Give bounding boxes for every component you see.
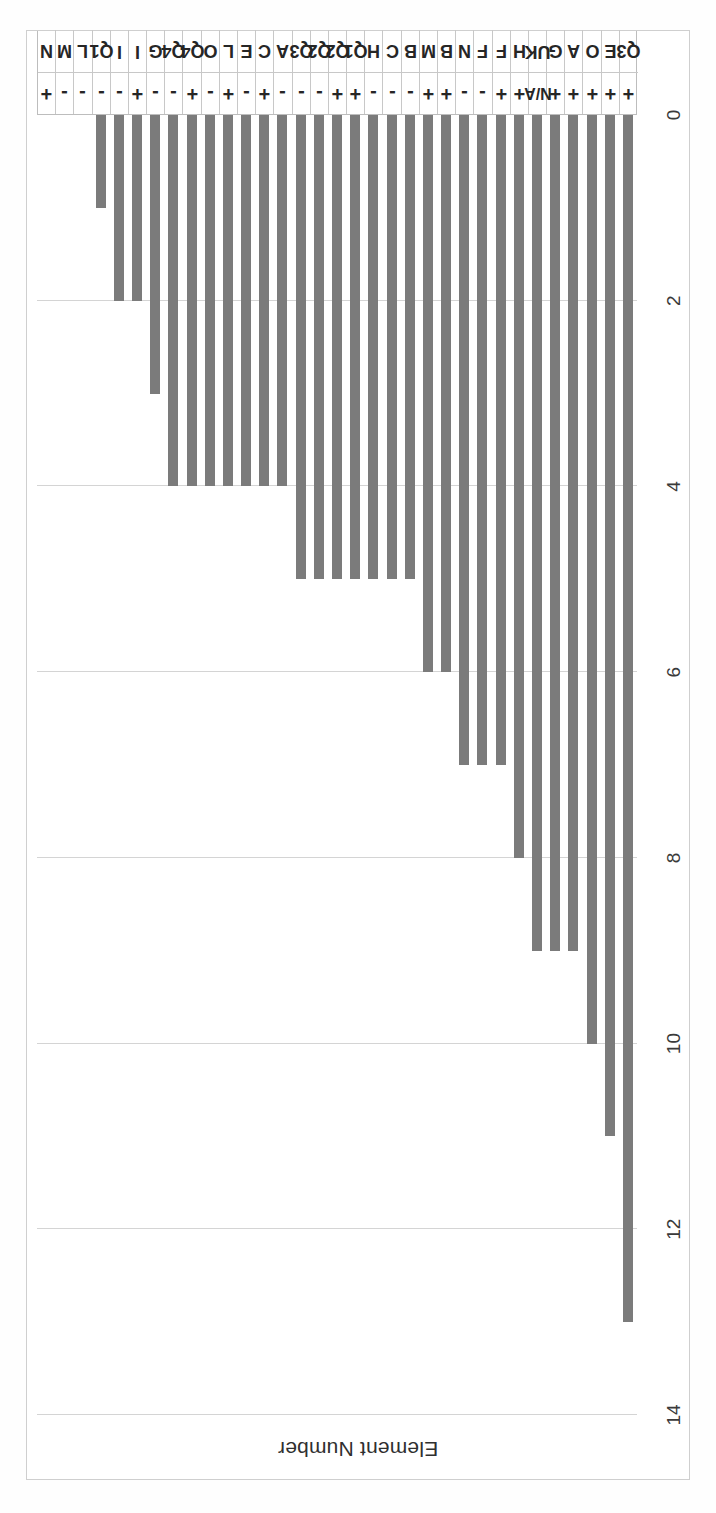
category-sign: - (383, 72, 400, 114)
bar (132, 115, 142, 301)
category-label-cell: +N (38, 30, 56, 114)
category-sign: + (329, 72, 346, 114)
category-sign: - (238, 72, 255, 114)
category-sign: - (456, 72, 473, 114)
bar-row (77, 115, 87, 1415)
bar (114, 115, 124, 301)
category-sign: + (602, 72, 619, 114)
bar-chart: Element Number +N-M-L-Q1-I+I-G-Q4+Q4-O+L… (27, 31, 689, 1479)
bar-row (623, 115, 633, 1415)
axis-title-label: Element Number (278, 1437, 438, 1461)
bar (350, 115, 360, 579)
category-code: N (456, 30, 473, 72)
category-sign: - (365, 72, 382, 114)
category-sign: - (165, 72, 182, 114)
category-sign: + (547, 72, 564, 114)
category-sign: - (56, 72, 73, 114)
category-code: C (383, 30, 400, 72)
category-sign: + (620, 72, 638, 114)
bar-row (423, 115, 433, 1415)
bar (605, 115, 615, 1136)
category-code: UK (529, 30, 546, 72)
category-sign: - (202, 72, 219, 114)
category-code: M (56, 30, 73, 72)
value-tick-0: 0 (663, 110, 685, 121)
category-code: Q3 (620, 30, 638, 72)
bar-row (405, 115, 415, 1415)
category-code: C (256, 30, 273, 72)
bar (587, 115, 597, 1044)
bar-row (368, 115, 378, 1415)
bar-series (37, 115, 637, 1415)
category-code: B (402, 30, 419, 72)
bar (405, 115, 415, 579)
bar-row (587, 115, 597, 1415)
bar (477, 115, 487, 765)
category-code: I (129, 30, 146, 72)
category-sign: + (129, 72, 146, 114)
category-sign: - (74, 72, 91, 114)
bar-row (223, 115, 233, 1415)
bar (441, 115, 451, 672)
bar-row (441, 115, 451, 1415)
category-label-cell: -E (238, 30, 256, 114)
bar-row (96, 115, 106, 1415)
value-tick-6: 6 (663, 667, 685, 678)
bar-row (568, 115, 578, 1415)
category-code: F (493, 30, 510, 72)
category-code: H (365, 30, 382, 72)
category-sign: + (183, 72, 200, 114)
bar-row (168, 115, 178, 1415)
bar-row (314, 115, 324, 1415)
bar-row (605, 115, 615, 1415)
category-label-cell: +A (565, 30, 583, 114)
bar (187, 115, 197, 486)
bar-row (514, 115, 524, 1415)
category-code: O (583, 30, 600, 72)
category-sign: - (147, 72, 164, 114)
bar-row (459, 115, 469, 1415)
bar-row (41, 115, 51, 1415)
bar-row (59, 115, 69, 1415)
category-sign: - (311, 72, 328, 114)
category-code: Q1 (347, 30, 364, 72)
category-label-cell: -F (474, 30, 492, 114)
bar (623, 115, 633, 1322)
bar-row (350, 115, 360, 1415)
bar-row (496, 115, 506, 1415)
value-tick-14: 14 (663, 1404, 685, 1425)
bar (568, 115, 578, 951)
axis-title: Element Number (27, 1429, 689, 1469)
category-code: E (238, 30, 255, 72)
category-sign: + (438, 72, 455, 114)
bar-row (277, 115, 287, 1415)
category-sign: + (583, 72, 600, 114)
bar (532, 115, 542, 951)
category-code: G (547, 30, 564, 72)
category-label-cell: -C (383, 30, 401, 114)
bar (550, 115, 560, 951)
bar (332, 115, 342, 579)
bar (241, 115, 251, 486)
category-label-cell: -N (456, 30, 474, 114)
bar (223, 115, 233, 486)
bar-row (114, 115, 124, 1415)
category-sign: - (111, 72, 128, 114)
category-code: Q4 (183, 30, 200, 72)
bar (423, 115, 433, 672)
category-sign: - (93, 72, 110, 114)
category-label-cell: +I (129, 30, 147, 114)
category-sign: + (256, 72, 273, 114)
bar (168, 115, 178, 486)
category-sign: + (420, 72, 437, 114)
bar (496, 115, 506, 765)
category-label-cell: +O (583, 30, 601, 114)
bar (277, 115, 287, 486)
category-code: M (420, 30, 437, 72)
category-sign: + (38, 72, 55, 114)
value-tick-8: 8 (663, 853, 685, 864)
category-label-cell: N/AUK (529, 30, 547, 114)
category-code: B (438, 30, 455, 72)
bar-row (532, 115, 542, 1415)
category-label-cell: +Q3 (620, 30, 638, 114)
